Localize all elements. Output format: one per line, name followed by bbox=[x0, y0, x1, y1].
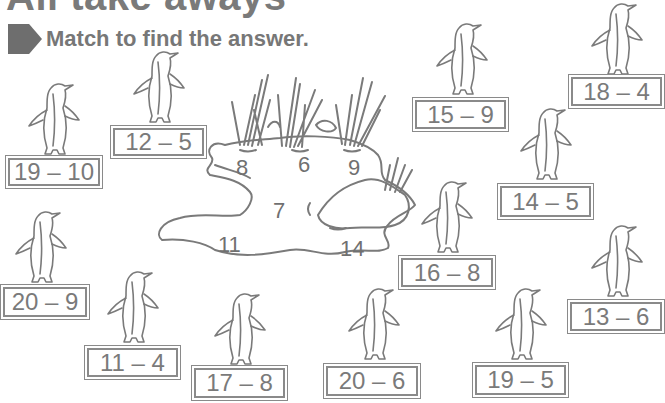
subtraction-card[interactable]: 17 – 8 bbox=[194, 368, 285, 398]
pond-answer[interactable]: 6 bbox=[298, 152, 310, 178]
penguin-icon bbox=[418, 178, 474, 260]
penguin-icon bbox=[588, 0, 644, 82]
penguin-icon bbox=[12, 208, 68, 290]
subtraction-card[interactable]: 14 – 5 bbox=[500, 186, 591, 217]
pond-answer[interactable]: 8 bbox=[236, 155, 248, 181]
page-title: All take aways bbox=[6, 0, 287, 19]
penguin-icon bbox=[588, 222, 644, 304]
subtraction-card[interactable]: 13 – 6 bbox=[570, 302, 662, 331]
pond-answer[interactable]: 7 bbox=[273, 198, 285, 224]
pond-answer[interactable]: 9 bbox=[348, 155, 360, 181]
subtraction-card[interactable]: 11 – 4 bbox=[87, 348, 178, 377]
pond-answer[interactable]: 14 bbox=[340, 236, 364, 262]
penguin-icon bbox=[211, 290, 267, 372]
subtraction-card[interactable]: 20 – 6 bbox=[326, 366, 418, 396]
subtraction-card[interactable]: 20 – 9 bbox=[3, 287, 87, 317]
subtraction-card[interactable]: 12 – 5 bbox=[113, 128, 204, 156]
pond-answer[interactable]: 11 bbox=[218, 232, 241, 258]
penguin-icon bbox=[433, 20, 489, 102]
arrow-pentagon-icon bbox=[8, 24, 42, 54]
penguin-icon bbox=[492, 285, 548, 367]
subtraction-card[interactable]: 15 – 9 bbox=[415, 100, 506, 129]
subtraction-card[interactable]: 19 – 5 bbox=[475, 365, 566, 395]
penguin-icon bbox=[345, 285, 401, 367]
penguin-icon bbox=[25, 80, 81, 162]
pond-illustration bbox=[150, 65, 440, 265]
subtraction-card[interactable]: 18 – 4 bbox=[571, 77, 662, 106]
subtraction-card[interactable]: 19 – 10 bbox=[8, 158, 100, 186]
penguin-icon bbox=[104, 268, 160, 350]
subtraction-card[interactable]: 16 – 8 bbox=[401, 258, 493, 287]
penguin-icon bbox=[130, 48, 186, 130]
penguin-icon bbox=[517, 105, 573, 187]
